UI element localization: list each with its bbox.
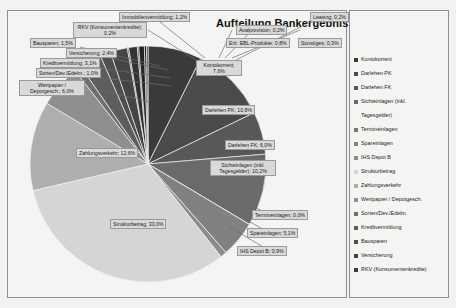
legend-item[interactable]: Spareinlagen <box>354 140 450 146</box>
legend-items: KontokorrentDarlehen PKDarlehen FKSichte… <box>354 56 450 280</box>
label-text: Wertpapier / <box>38 82 66 88</box>
legend-swatch <box>354 226 358 230</box>
legend-label: Kreditvermittlung <box>361 224 401 230</box>
legend-label: Wertpapier / Depotgesch. <box>361 196 422 202</box>
label-text: Termineinlagen; 0,0% <box>255 212 305 218</box>
legend-swatch <box>354 72 358 76</box>
legend-swatch <box>354 100 358 104</box>
label-strukturbetrag: Strukturbetrag; 33,0% <box>110 219 166 229</box>
legend-swatch <box>354 212 358 216</box>
label-text: Leasing; 0,2% <box>313 14 346 20</box>
legend-swatch <box>354 156 358 160</box>
label-text-line2: 7,6% <box>213 68 225 74</box>
legend-item[interactable]: Kontokorrent <box>354 56 450 62</box>
label-text: Sorten/Dev./Edelm.; 1,0% <box>39 70 98 76</box>
label-text: Darlehen PK; 10,8% <box>205 107 252 113</box>
legend-swatch <box>354 58 358 62</box>
legend-label: Termineinlagen <box>361 126 398 132</box>
label-avalprovision: Avalprovision; 0,2% <box>236 25 287 35</box>
label-kontokorrent: Kontokorrent; 7,6% <box>196 60 242 76</box>
label-darlehen-fk: Darlehen FK; 6,0% <box>225 140 275 150</box>
label-versicherung: Versicherung; 2,4% <box>66 48 117 58</box>
legend-label: Bausparen <box>361 238 387 244</box>
legend-swatch <box>354 184 358 188</box>
legend-swatch <box>354 268 358 272</box>
label-wertpapier: Wertpapier / Depotgesch.; 6,0% <box>19 80 85 96</box>
legend-item[interactable]: Versicherung <box>354 252 450 258</box>
legend-item[interactable]: Kreditvermittlung <box>354 224 450 230</box>
label-immobilienvermittlung: Immobilienvermittlung; 1,2% <box>119 12 190 22</box>
legend-label: Tagesgelder) <box>361 112 392 118</box>
label-text-line2: Tagesgelder); 10,2% <box>219 168 267 174</box>
legend-label: Versicherung <box>361 252 392 258</box>
label-spareinlagen: Spareinlagen; 5,1% <box>247 228 298 238</box>
label-text: Avalprovision; 0,2% <box>239 27 284 33</box>
legend-swatch <box>354 86 358 90</box>
legend-swatch <box>354 240 358 244</box>
label-sonstiges: Sonstiges; 0,3% <box>298 38 342 48</box>
legend-swatch <box>354 198 358 202</box>
legend-item[interactable]: Tagesgelder) <box>354 112 450 118</box>
label-text: Sichteinlagen (inkl. <box>221 162 265 168</box>
legend-item[interactable]: Bausparen <box>354 238 450 244</box>
label-text: Erlr. EBL-Produkte; 0,8% <box>229 40 287 46</box>
legend-item[interactable]: IHS Depot B <box>354 154 450 160</box>
legend-item[interactable]: Zahlungsverkehr <box>354 182 450 188</box>
legend-label: Darlehen FK <box>361 84 391 90</box>
legend-label: Zahlungsverkehr <box>361 182 401 188</box>
label-text: Immobilienvermittlung; 1,2% <box>122 14 187 20</box>
legend-item[interactable]: Wertpapier / Depotgesch. <box>354 196 450 202</box>
legend-swatch <box>354 142 358 146</box>
legend-label: Sorten/Dev./Edelm. <box>361 210 407 216</box>
legend-label: Darlehen PK <box>361 70 392 76</box>
legend-label: IHS Depot B <box>361 154 391 160</box>
label-text: Sonstiges; 0,3% <box>301 40 339 46</box>
label-erlr-ebl: Erlr. EBL-Produkte; 0,8% <box>226 38 290 48</box>
label-bausparen: Bausparen; 1,5% <box>30 38 76 48</box>
legend-swatch <box>354 170 358 174</box>
legend-label: RKV (Konsumentenkredite) <box>361 266 427 272</box>
label-text: Bausparen; 1,5% <box>33 40 73 46</box>
legend-item[interactable]: Sorten/Dev./Edelm. <box>354 210 450 216</box>
label-text-line2: 0,2% <box>104 30 116 36</box>
label-text: Versicherung; 2,4% <box>69 50 114 56</box>
label-sorten: Sorten/Dev./Edelm.; 1,0% <box>36 68 101 78</box>
label-termineinlagen: Termineinlagen; 0,0% <box>252 210 308 220</box>
label-text: IHS Depot B; 0,9% <box>240 248 284 254</box>
legend-item[interactable]: RKV (Konsumentenkredite) <box>354 266 450 272</box>
legend-swatch <box>354 128 358 132</box>
label-kreditvermittlung: Kreditvermittlung; 3,1% <box>40 58 100 68</box>
legend-swatch <box>354 254 358 258</box>
label-text: RKV (Konsumentenkredite); <box>78 24 143 30</box>
label-ihs-depot-b: IHS Depot B; 0,9% <box>237 246 287 256</box>
label-text: Kontokorrent; <box>203 62 234 68</box>
legend-label: Strukturbetrag <box>361 168 395 174</box>
label-leasing: Leasing; 0,2% <box>310 12 349 22</box>
label-darlehen-pk: Darlehen PK; 10,8% <box>202 105 255 115</box>
legend-label: Sichteinlagen (inkl. <box>361 98 406 104</box>
label-text: Darlehen FK; 6,0% <box>228 142 272 148</box>
screenshot-root: Aufteilung Bankergebnis Immobilienvermit… <box>0 0 456 308</box>
legend-item[interactable]: Sichteinlagen (inkl. <box>354 98 450 104</box>
legend-item[interactable]: Strukturbetrag <box>354 168 450 174</box>
label-text: Spareinlagen; 5,1% <box>250 230 295 236</box>
legend-item[interactable]: Termineinlagen <box>354 126 450 132</box>
label-zahlungsverkehr: Zahlungsverkehr; 12,6% <box>76 148 138 158</box>
label-text: Strukturbetrag; 33,0% <box>113 221 163 227</box>
label-rkv: RKV (Konsumentenkredite); 0,2% <box>73 22 147 38</box>
legend-label: Spareinlagen <box>361 140 393 146</box>
legend-item[interactable]: Darlehen FK <box>354 84 450 90</box>
legend-item[interactable]: Darlehen PK <box>354 70 450 76</box>
legend-swatch <box>354 114 358 118</box>
legend-label: Kontokorrent <box>361 56 392 62</box>
label-text: Zahlungsverkehr; 12,6% <box>79 150 135 156</box>
label-text: Kreditvermittlung; 3,1% <box>43 60 97 66</box>
label-text-line2: Depotgesch.; 6,0% <box>30 88 74 94</box>
label-sichteinlagen: Sichteinlagen (inkl. Tagesgelder); 10,2% <box>210 160 276 176</box>
